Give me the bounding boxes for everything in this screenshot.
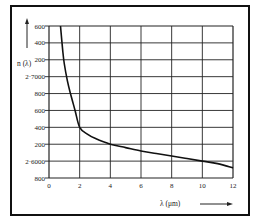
x-tick: 12 [230,182,238,190]
y-tick: 600 [35,107,46,115]
x-tick: 10 [199,182,207,190]
y-tick: 200 [35,141,46,149]
x-tick: 0 [47,182,51,190]
y-tick: 200 [35,56,46,64]
data-curve [61,26,234,168]
y-tick: 800 [35,175,46,183]
x-tick: 6 [139,182,143,190]
x-tick: 8 [170,182,174,190]
y-tick: 600 [35,23,46,31]
y-arrow-head-icon [25,18,29,24]
y-tick: 2·7000 [25,73,45,81]
x-tick: 2 [78,182,82,190]
x-arrow-head-icon [227,202,233,206]
y-tick-labels: 6004002002·70008006004002002·6000800 [25,23,45,183]
y-tick: 400 [35,39,46,47]
x-axis-label: λ (μm) [160,199,181,208]
refractive-index-chart: 6004002002·70008006004002002·6000800 024… [0,0,258,223]
y-tick: 400 [35,124,46,132]
y-tick: 2·6000 [25,158,45,166]
x-tick: 4 [109,182,113,190]
x-tick-labels: 024681012 [47,182,237,190]
y-tick: 800 [35,90,46,98]
y-axis-label: n (λ) [17,59,32,68]
